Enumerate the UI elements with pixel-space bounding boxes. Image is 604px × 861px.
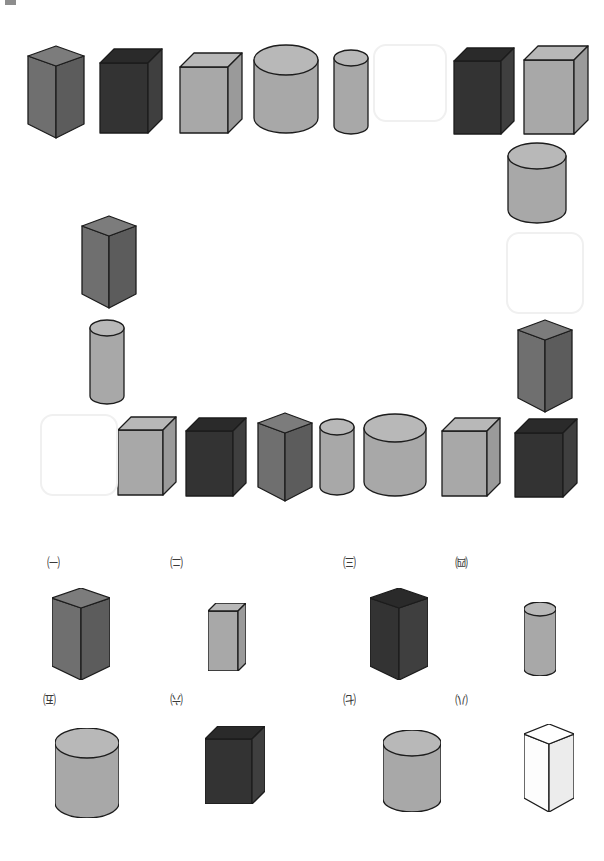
option-label-1: ㈠: [47, 556, 60, 569]
sequence-solid-triangular-prism: [82, 216, 136, 308]
sequence-blank-slot[interactable]: [506, 232, 584, 314]
option-solid-7-cylinder[interactable]: [383, 730, 441, 816]
worksheet-canvas: ㈠㈡㈢㈣㈤㈥㈦㈧: [0, 0, 604, 861]
sequence-solid-triangular-prism: [258, 413, 312, 501]
option-solid-2-rectangular-prism[interactable]: [208, 603, 246, 675]
option-solid-4-cylinder[interactable]: [524, 602, 556, 680]
sequence-solid-cylinder: [364, 414, 426, 496]
sequence-solid-rectangular-prism: [524, 46, 588, 134]
option-label-2: ㈡: [170, 556, 183, 569]
sequence-solid-rectangular-prism: [186, 418, 246, 496]
sequence-blank-slot[interactable]: [373, 44, 447, 122]
sequence-solid-rectangular-prism: [454, 48, 514, 134]
scan-corner-mark: [5, 0, 16, 5]
option-label-3: ㈢: [343, 556, 356, 569]
sequence-solid-cylinder: [254, 45, 318, 133]
sequence-solid-cylinder: [334, 50, 368, 134]
option-label-4: ㈣: [455, 556, 468, 569]
option-solid-1-triangular-prism[interactable]: [52, 588, 110, 684]
option-label-7: ㈦: [343, 693, 356, 706]
sequence-solid-cylinder: [90, 320, 124, 404]
sequence-solid-cylinder: [320, 419, 354, 495]
sequence-blank-slot[interactable]: [40, 414, 118, 496]
option-solid-5-cylinder[interactable]: [55, 728, 119, 822]
sequence-solid-triangular-prism: [518, 320, 572, 412]
option-solid-6-rectangular-prism[interactable]: [205, 726, 265, 808]
sequence-solid-cylinder: [508, 143, 566, 223]
sequence-solid-rectangular-prism: [180, 53, 242, 133]
option-solid-8-triangular-prism[interactable]: [524, 724, 574, 816]
sequence-solid-rectangular-prism: [515, 419, 577, 497]
option-label-5: ㈤: [43, 693, 56, 706]
sequence-solid-rectangular-prism: [118, 417, 176, 495]
option-label-6: ㈥: [170, 693, 183, 706]
sequence-solid-rectangular-prism: [442, 418, 500, 496]
sequence-solid-rectangular-prism: [100, 49, 162, 133]
sequence-solid-triangular-prism: [28, 46, 84, 138]
option-solid-3-triangular-prism[interactable]: [370, 588, 428, 684]
option-label-8: ㈧: [455, 693, 468, 706]
